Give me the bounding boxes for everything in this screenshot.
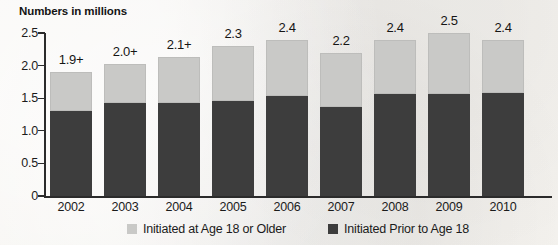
x-axis-label-2010: 2010 [473, 200, 533, 214]
y-tick-mark [38, 130, 45, 131]
bar-segment-initiated-prior-to-18 [158, 103, 200, 196]
bar-segment-initiated-prior-to-18 [320, 107, 362, 196]
bar-2007 [320, 53, 362, 196]
bar-total-label-2009: 2.5 [419, 13, 479, 28]
bar-total-label-2007: 2.2 [311, 33, 371, 48]
bar-total-label-2004: 2.1+ [149, 37, 209, 52]
y-tick-mark [38, 163, 45, 164]
bar-total-label-2010: 2.4 [473, 20, 533, 35]
x-axis-label-2005: 2005 [203, 200, 263, 214]
x-axis-label-2007: 2007 [311, 200, 371, 214]
bar-segment-initiated-at-18-or-older [266, 40, 308, 96]
y-tick-label: 2.0 [4, 59, 38, 73]
bar-segment-initiated-at-18-or-older [212, 46, 254, 101]
bar-segment-initiated-prior-to-18 [212, 101, 254, 196]
y-tick-label: 0 [4, 189, 38, 203]
bar-segment-initiated-prior-to-18 [374, 94, 416, 196]
bar-2009 [428, 33, 470, 196]
stacked-bar-chart: Numbers in millions 00.51.01.52.02.5 1.9… [0, 0, 558, 245]
bar-segment-initiated-prior-to-18 [50, 111, 92, 196]
bar-2010 [482, 40, 524, 196]
x-axis-label-2006: 2006 [257, 200, 317, 214]
bar-segment-initiated-at-18-or-older [374, 40, 416, 95]
legend-item-initiated-at-18-or-older: Initiated at Age 18 or Older [127, 222, 286, 236]
y-tick-label: 0.5 [4, 156, 38, 170]
plot-area: 00.51.01.52.02.5 1.9+2.0+2.1+2.32.42.22.… [0, 0, 558, 245]
chart-legend: Initiated at Age 18 or Older Initiated P… [44, 222, 552, 236]
bar-segment-initiated-at-18-or-older [50, 72, 92, 111]
bar-segment-initiated-prior-to-18 [104, 103, 146, 196]
x-axis-label-2004: 2004 [149, 200, 209, 214]
x-axis-label-2008: 2008 [365, 200, 425, 214]
bar-total-label-2002: 1.9+ [41, 52, 101, 67]
y-tick-label: 1.0 [4, 124, 38, 138]
bar-segment-initiated-at-18-or-older [104, 64, 146, 103]
y-tick-mark [38, 98, 45, 99]
bar-2004 [158, 57, 200, 196]
bar-2003 [104, 64, 146, 196]
y-tick-label: 1.5 [4, 91, 38, 105]
bar-total-label-2003: 2.0+ [95, 44, 155, 59]
bar-segment-initiated-at-18-or-older [320, 53, 362, 108]
x-axis-label-2003: 2003 [95, 200, 155, 214]
bar-segment-initiated-prior-to-18 [428, 94, 470, 196]
bar-total-label-2005: 2.3 [203, 26, 263, 41]
x-axis-label-2009: 2009 [419, 200, 479, 214]
legend-label-initiated-prior-to-18: Initiated Prior to Age 18 [344, 222, 469, 236]
bar-segment-initiated-at-18-or-older [482, 40, 524, 93]
light-gray-swatch-icon [127, 224, 137, 234]
bar-2006 [266, 40, 308, 196]
bar-2008 [374, 40, 416, 196]
bar-segment-initiated-at-18-or-older [428, 33, 470, 94]
x-axis-line [44, 196, 552, 198]
y-tick-mark [38, 32, 45, 33]
y-tick-label: 2.5 [4, 26, 38, 40]
bar-segment-initiated-prior-to-18 [482, 93, 524, 196]
bar-total-label-2008: 2.4 [365, 20, 425, 35]
legend-item-initiated-prior-to-18: Initiated Prior to Age 18 [328, 222, 469, 236]
bar-2002 [50, 72, 92, 196]
bar-segment-initiated-at-18-or-older [158, 57, 200, 103]
bar-segment-initiated-prior-to-18 [266, 96, 308, 196]
x-axis-label-2002: 2002 [41, 200, 101, 214]
bar-2005 [212, 46, 254, 196]
y-tick-mark [38, 195, 45, 196]
dark-gray-swatch-icon [328, 224, 338, 234]
bar-total-label-2006: 2.4 [257, 20, 317, 35]
legend-label-initiated-at-18-or-older: Initiated at Age 18 or Older [143, 222, 286, 236]
